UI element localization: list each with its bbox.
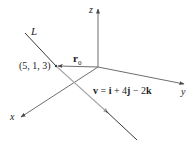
z-axis-label: z <box>89 5 93 15</box>
eq-sign: = <box>98 85 109 96</box>
line-L-lower <box>106 111 137 140</box>
k-symbol: k <box>146 85 152 96</box>
y-axis-label: y <box>181 87 185 97</box>
line-label: L <box>31 26 37 37</box>
point-label: (5, 1, 3) <box>19 61 51 71</box>
x-axis-label: x <box>10 112 14 122</box>
r0-label: r0 <box>73 53 81 67</box>
diagram-canvas <box>0 0 193 151</box>
minus-2: − 2 <box>130 85 146 96</box>
y-axis <box>98 67 184 84</box>
point-marker <box>55 65 57 67</box>
plus-4: + 4 <box>111 85 127 96</box>
v-equation-label: v = i + 4j − 2k <box>93 86 152 96</box>
x-axis <box>21 67 98 117</box>
r0-sub: 0 <box>78 59 82 67</box>
